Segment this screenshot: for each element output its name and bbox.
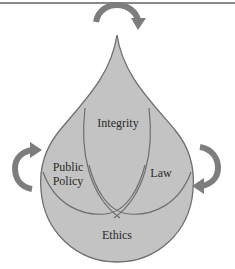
top-cycle-arrow-icon (96, 5, 146, 30)
left-cycle-arrow-icon (15, 142, 42, 189)
public-policy-line2: Policy (48, 174, 88, 188)
integrity-label: Integrity (94, 116, 142, 130)
public-policy-line1: Public (48, 160, 88, 174)
right-cycle-arrow-icon (192, 147, 218, 194)
law-label: Law (148, 166, 174, 180)
ethics-label: Ethics (97, 228, 137, 242)
public-policy-label: Public Policy (48, 160, 88, 188)
